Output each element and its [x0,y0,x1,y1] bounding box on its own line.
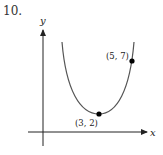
vertex-point [96,111,101,116]
vertex-label: (3, 2) [75,118,98,128]
point-label: (5, 7) [106,51,129,61]
point-5-7 [129,58,134,63]
x-axis-label: x [150,127,156,138]
parabola-graph: y x (3, 2) (5, 7) [0,0,163,155]
y-axis-label: y [39,15,46,26]
